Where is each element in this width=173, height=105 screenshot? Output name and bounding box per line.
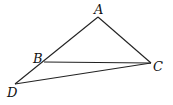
label-a: A	[93, 2, 103, 17]
triangle-diagram: A B C D	[0, 0, 173, 105]
segment-ac	[98, 17, 151, 63]
label-b: B	[32, 51, 43, 66]
segment-dc	[15, 63, 151, 84]
segment-ad	[15, 17, 98, 84]
label-c: C	[153, 59, 163, 74]
segment-bc	[44, 62, 151, 63]
label-d: D	[6, 85, 18, 100]
